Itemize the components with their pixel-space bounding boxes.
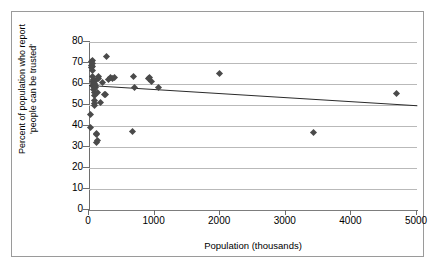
chart-frame: Percent of population who report 'people… xyxy=(11,11,424,257)
gridline-y xyxy=(89,105,417,106)
y-axis-tick xyxy=(83,125,89,126)
gridline-y xyxy=(89,189,417,190)
scatter-chart-figure: Percent of population who report 'people… xyxy=(0,0,434,273)
gridline-y xyxy=(89,84,417,85)
y-axis-tick xyxy=(83,167,89,168)
y-axis-tick xyxy=(83,146,89,147)
data-point xyxy=(131,84,138,91)
y-axis-tick-label: 10 xyxy=(37,183,83,193)
data-point xyxy=(130,73,137,80)
y-axis-tick-label: 50 xyxy=(37,99,83,109)
y-axis-tick-labels: 01020304050607080 xyxy=(27,12,83,273)
gridline-y xyxy=(89,168,417,169)
data-point xyxy=(129,128,136,135)
plot-area xyxy=(89,42,417,210)
y-axis-tick xyxy=(83,188,89,189)
gridline-y xyxy=(89,210,417,211)
x-axis-tick-label: 2000 xyxy=(189,215,249,226)
y-axis-tick-label: 80 xyxy=(37,36,83,46)
data-point xyxy=(87,111,94,118)
x-axis-tick-label: 1000 xyxy=(124,215,184,226)
gridline-y xyxy=(89,126,417,127)
data-point xyxy=(103,53,110,60)
data-point xyxy=(216,70,223,77)
y-axis-tick xyxy=(83,83,89,84)
data-point xyxy=(392,90,399,97)
x-axis-tick-label: 4000 xyxy=(320,215,380,226)
gridline-y xyxy=(89,42,417,43)
x-axis-tick-label: 0 xyxy=(58,215,118,226)
y-axis-tick-label: 0 xyxy=(37,204,83,214)
gridline-y xyxy=(89,63,417,64)
trendline xyxy=(89,85,417,106)
y-axis-tick-label: 40 xyxy=(37,120,83,130)
y-axis-tick-label: 30 xyxy=(37,141,83,151)
y-axis-tick xyxy=(83,41,89,42)
y-axis-tick xyxy=(83,104,89,105)
data-point xyxy=(310,129,317,136)
x-axis-tick-label: 5000 xyxy=(386,215,434,226)
y-axis-tick-label: 70 xyxy=(37,57,83,67)
y-axis-tick xyxy=(83,62,89,63)
y-axis-tick-label: 20 xyxy=(37,162,83,172)
y-axis-tick-label: 60 xyxy=(37,78,83,88)
gridline-y xyxy=(89,147,417,148)
x-axis-title: Population (thousands) xyxy=(89,240,417,251)
x-axis-tick-label: 3000 xyxy=(255,215,315,226)
